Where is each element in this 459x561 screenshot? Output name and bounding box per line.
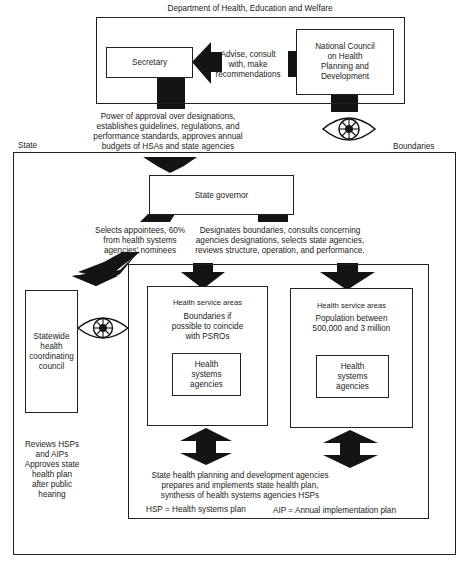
reviews-text: Reviews HSPs and AIPs Approves state hea… [18, 440, 86, 500]
health-service-area-1[interactable]: Health service areas Boundaries if possi… [147, 286, 268, 426]
state-governor-label: State governor [195, 191, 249, 200]
national-council-box[interactable]: National Council on Health Planning and … [296, 29, 394, 95]
eye-icon [323, 118, 375, 140]
state-governor-box[interactable]: State governor [149, 175, 294, 215]
legend-aip: AIP = Annual implementation plan [273, 506, 396, 516]
hsa-description: Boundaries if possible to coincide with … [148, 312, 267, 342]
boundaries-label: Boundaries [393, 142, 434, 152]
health-service-area-2[interactable]: Health service areas Population between … [290, 288, 413, 428]
statewide-council-box[interactable]: Statewide health coordinating council [25, 290, 78, 413]
selects-appointees-text: Selects appointees, 60% from health syst… [88, 226, 192, 256]
designates-boundaries-text: Designates boundaries, consults concerni… [193, 226, 367, 256]
legend-hsp: HSP = Health systems plan [146, 505, 246, 515]
advise-text: Advise, consult with, make recommendatio… [213, 50, 283, 80]
secretary-label: Secretary [132, 58, 167, 67]
state-agency-text: State health planning and development ag… [140, 471, 340, 501]
secretary-box[interactable]: Secretary [106, 47, 193, 78]
dhew-title: Department of Health, Education and Welf… [150, 4, 350, 14]
hsa-description: Population between 500,000 and 3 million [291, 314, 412, 334]
power-of-approval-text: Power of approval over designations, est… [88, 112, 248, 152]
health-systems-agency-box[interactable]: Health systems agencies [172, 353, 241, 396]
hsa-title: Health service areas [291, 301, 412, 311]
health-systems-agency-box[interactable]: Health systems agencies [316, 355, 389, 398]
state-label: State [18, 141, 37, 151]
hsa-title: Health service areas [148, 298, 267, 308]
